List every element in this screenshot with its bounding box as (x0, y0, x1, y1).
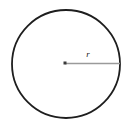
radius-label: r (86, 49, 90, 59)
center-dot (64, 62, 67, 65)
figure-background (0, 0, 132, 130)
circle-radius-figure: r (0, 0, 132, 130)
figure-svg: r (0, 0, 132, 130)
